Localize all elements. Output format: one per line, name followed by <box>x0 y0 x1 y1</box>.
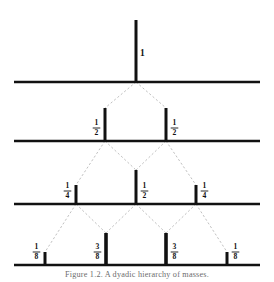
fraction-numerator: 3 <box>96 242 100 251</box>
fraction-denominator: 4 <box>66 191 70 200</box>
split-edge-8 <box>106 204 136 233</box>
mass-label-root: 1 <box>140 48 145 58</box>
fraction-denominator: 8 <box>173 252 177 261</box>
fraction-numerator: 3 <box>173 242 177 251</box>
split-edge-7 <box>76 204 106 233</box>
fraction-denominator: 8 <box>35 252 39 261</box>
split-edge-2 <box>76 141 105 185</box>
fraction-numerator: 1 <box>66 181 70 190</box>
mass-label-3-3: 18 <box>232 242 240 261</box>
fraction-denominator: 2 <box>143 191 147 200</box>
fraction-numerator: 1 <box>35 242 39 251</box>
fraction-denominator: 8 <box>96 252 100 261</box>
fraction-denominator: 2 <box>95 128 99 137</box>
fraction-numerator: 1 <box>234 242 238 251</box>
fraction-denominator: 8 <box>234 252 238 261</box>
split-edge-0 <box>105 82 136 108</box>
split-edge-11 <box>196 204 227 252</box>
mass-label-3-0: 18 <box>33 242 41 261</box>
fraction-denominator: 2 <box>173 128 177 137</box>
split-edge-10 <box>166 204 196 233</box>
figure-canvas: 1121214121418383818 <box>0 0 274 282</box>
split-edge-layer <box>45 82 227 252</box>
fraction-numerator: 1 <box>173 118 177 127</box>
mass-label-1-0: 12 <box>93 118 101 137</box>
mass-label-1-1: 12 <box>171 118 179 137</box>
split-edge-5 <box>166 141 196 185</box>
fraction-denominator: 4 <box>203 191 207 200</box>
split-edge-4 <box>136 141 166 170</box>
fraction-numerator: 1 <box>95 118 99 127</box>
split-edge-1 <box>136 82 166 108</box>
mass-label-2-0: 14 <box>64 181 72 200</box>
mass-bar-layer <box>45 20 227 265</box>
fraction-numerator: 1 <box>203 181 207 190</box>
figure-root: 1121214121418383818 Figure 1.2. A dyadic… <box>0 0 274 282</box>
mass-label-3-1: 38 <box>94 242 102 261</box>
mass-label-3-2: 38 <box>171 242 179 261</box>
mass-label-2-2: 14 <box>201 181 209 200</box>
figure-caption: Figure 1.2. A dyadic hierarchy of masses… <box>0 270 274 279</box>
mass-label-2-1: 12 <box>141 181 149 200</box>
split-edge-3 <box>105 141 136 170</box>
split-edge-6 <box>45 204 76 252</box>
split-edge-9 <box>136 204 166 233</box>
fraction-numerator: 1 <box>143 181 147 190</box>
